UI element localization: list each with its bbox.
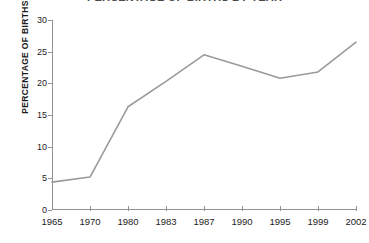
x-tick-label: 2002 <box>345 216 366 227</box>
figure-title-cropped: PERCENTAGE OF BIRTHS BY YEAR <box>0 0 369 3</box>
line-series <box>52 20 356 210</box>
y-tick-label: 25 <box>37 47 47 57</box>
y-tick-label: 0 <box>42 205 47 215</box>
series-polyline <box>52 42 356 182</box>
x-tick-mark <box>356 206 357 211</box>
x-tick-label: 1999 <box>307 216 328 227</box>
x-tick-label: 1987 <box>193 216 214 227</box>
y-tick-mark <box>48 210 52 211</box>
x-tick-label: 1965 <box>41 216 62 227</box>
y-axis-title: PERCENTAGE OF BIRTHS <box>20 0 30 137</box>
y-tick-label: 5 <box>42 173 47 183</box>
y-tick-label: 15 <box>37 110 47 120</box>
y-tick-label: 30 <box>37 15 47 25</box>
x-tick-label: 1970 <box>79 216 100 227</box>
chart-screenshot: PERCENTAGE OF BIRTHS BY YEAR PERCENTAGE … <box>0 0 369 243</box>
x-tick-label: 1980 <box>117 216 138 227</box>
x-tick-label: 1995 <box>269 216 290 227</box>
plot-area: 051015202530 196519701980198319871990199… <box>52 20 356 210</box>
x-tick-label: 1990 <box>231 216 252 227</box>
y-tick-label: 20 <box>37 78 47 88</box>
x-tick-label: 1983 <box>155 216 176 227</box>
y-tick-label: 10 <box>37 142 47 152</box>
